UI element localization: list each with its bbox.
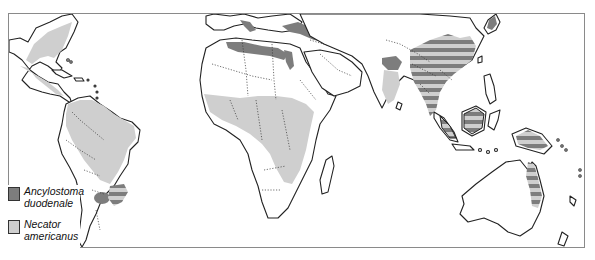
- world-map: [0, 0, 595, 260]
- legend-label: Ancylostoma duodenale: [24, 185, 84, 209]
- both-sumatra: [440, 116, 456, 138]
- java: [452, 144, 474, 150]
- both-china-southeast-asia: [410, 34, 476, 116]
- legend-item-necator: Necator americanus: [8, 218, 80, 242]
- ancylostoma-swatch: [8, 187, 20, 201]
- necator-swatch: [8, 220, 20, 234]
- ancylo-paraguay: [94, 192, 110, 204]
- legend: Ancylostoma duodenale Necator americanus: [8, 185, 80, 251]
- taiwan: [478, 56, 482, 63]
- new-zealand-south: [558, 232, 568, 246]
- legend-label: Necator americanus: [24, 218, 78, 242]
- new-zealand-north: [570, 196, 576, 206]
- hispaniola: [74, 78, 84, 81]
- both-southern-brazil: [108, 184, 128, 206]
- sri-lanka: [396, 102, 402, 110]
- madagascar: [320, 156, 334, 194]
- bahamas: [67, 59, 70, 62]
- cuba: [52, 70, 72, 78]
- philippines: [484, 74, 496, 104]
- legend-item-ancylostoma: Ancylostoma duodenale: [8, 185, 80, 209]
- sulawesi: [488, 110, 500, 130]
